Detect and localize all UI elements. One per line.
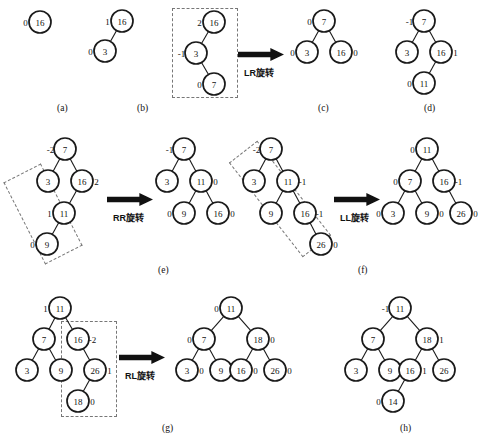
node-value: 11 (420, 79, 429, 89)
tree-edge (209, 349, 215, 361)
tree-node: 11-1 (277, 170, 306, 192)
node-value: 3 (305, 48, 310, 58)
balance-factor: 0 (30, 240, 35, 250)
node-value: 7 (63, 145, 68, 155)
node-value: 3 (25, 366, 30, 376)
node-value: 16 (437, 48, 447, 58)
tree-edge (380, 316, 393, 330)
balance-factor: 0 (376, 209, 381, 219)
tree-edge (432, 349, 438, 361)
tree-node: 261 (84, 359, 112, 381)
tree-edge (238, 316, 251, 330)
balance-factor: -1 (166, 145, 174, 155)
tree-c-before: 1623-170 (170, 4, 240, 102)
tree-edge (202, 63, 209, 75)
tree-node: 70 (393, 170, 421, 192)
tree-node: 161 (399, 359, 427, 381)
caption-c: (c) (318, 103, 329, 113)
tree-node: 7 (33, 328, 55, 350)
tree-edge (66, 318, 73, 330)
node-value: 18 (74, 397, 84, 407)
tree-node: 110 (410, 138, 438, 160)
tree-edge (259, 159, 266, 172)
balance-factor: 0 (213, 177, 218, 187)
node-value: 26 (440, 366, 450, 376)
balance-factor: 0 (353, 48, 358, 58)
tree-edge (398, 191, 405, 204)
tree-node: 7-1 (166, 138, 195, 160)
tree-node: 111 (43, 297, 71, 319)
tree-edge (415, 349, 421, 361)
tree-node: 3 (37, 170, 59, 192)
tree-node: 160 (230, 359, 258, 381)
balance-factor: 0 (376, 397, 381, 407)
node-value: 11 (284, 177, 293, 187)
tree-node: 110 (407, 72, 435, 94)
tree-d: 7-13161110 (381, 3, 467, 101)
tree-node: 111 (47, 202, 75, 224)
tree-node: 9 (210, 359, 232, 381)
tree-node: 70 (187, 328, 215, 350)
tree-node: 3-1 (178, 42, 207, 64)
node-value: 9 (219, 366, 224, 376)
balance-factor: 0 (253, 366, 258, 376)
node-value: 3 (354, 366, 359, 376)
balance-factor: -1 (406, 17, 414, 27)
balance-factor: -1 (299, 177, 307, 187)
tree-node: 90 (30, 233, 58, 255)
balance-factor: -1 (382, 304, 390, 314)
tree-edge (263, 349, 269, 361)
tree-f-after: 1107016-13090260 (367, 131, 487, 231)
tree-edge (293, 191, 300, 204)
node-value: 3 (391, 209, 396, 219)
node-value: 18 (254, 335, 264, 345)
node-value: 7 (202, 335, 207, 345)
balance-factor: 1 (422, 366, 427, 376)
node-value: 18 (423, 335, 433, 345)
tree-edge (202, 32, 209, 44)
arrow-ll (334, 193, 380, 206)
node-value: 9 (45, 240, 50, 250)
balance-factor: 1 (105, 17, 110, 27)
tree-edge (449, 191, 456, 204)
node-value: 9 (182, 209, 187, 219)
tree-node: 30 (376, 202, 404, 224)
tree-edge (172, 159, 179, 172)
node-value: 11 (197, 177, 206, 187)
tree-node: 3 (396, 41, 418, 63)
caption-f: (f) (358, 265, 368, 275)
balance-factor: 0 (199, 366, 204, 376)
node-value: 7 (422, 17, 427, 27)
tree-node: 16-1 (433, 170, 462, 192)
tree-edge (329, 31, 335, 43)
node-value: 7 (269, 145, 274, 155)
balance-factor: 1 (439, 335, 444, 345)
tree-edge (211, 316, 224, 330)
balance-factor: 0 (333, 240, 338, 250)
tree-node: 3 (16, 359, 38, 381)
tree-node: 3 (156, 170, 178, 192)
tree-edge (310, 223, 316, 234)
balance-factor: -2 (47, 145, 55, 155)
balance-factor: 0 (439, 209, 444, 219)
tree-node: 161 (105, 10, 133, 32)
arrow-rr (107, 193, 153, 206)
tree-edge (192, 349, 198, 361)
balance-factor: 0 (270, 335, 275, 345)
node-value: 3 (405, 48, 410, 58)
tree-edge (206, 191, 213, 204)
tree-edge (246, 349, 252, 361)
arrow-shape (119, 351, 165, 364)
balance-factor: 0 (23, 18, 28, 28)
node-value: 26 (457, 209, 467, 219)
node-value: 16 (78, 177, 88, 187)
arrow-shape (107, 193, 153, 206)
tree-node: 30 (290, 41, 318, 63)
balance-factor: 0 (88, 47, 93, 57)
tree-edge (361, 349, 367, 361)
tree-edge (83, 349, 89, 361)
node-value: 3 (185, 366, 190, 376)
balance-factor: -2 (253, 145, 261, 155)
node-value: 26 (271, 366, 281, 376)
tree-edge (312, 31, 318, 43)
